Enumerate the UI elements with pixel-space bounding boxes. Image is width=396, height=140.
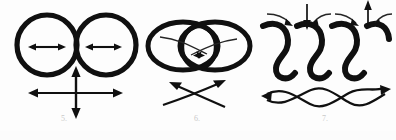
scan-noise-strip (0, 131, 396, 140)
up-arrow-head (364, 0, 372, 10)
right-circle (76, 15, 136, 75)
right-inner-double-arrow (85, 43, 122, 50)
braided-streamlines (261, 85, 391, 106)
figure-5 (0, 0, 140, 140)
diagram-page: 5. 6. 7. (0, 0, 396, 140)
lower-crossing-x-arrows (163, 80, 226, 107)
s-shaped-lobes (263, 24, 389, 78)
inner-crossing-flow-lines (160, 37, 237, 59)
tangency-bar (75, 38, 78, 56)
central-lens (182, 26, 216, 68)
figure-5-caption: 5. (61, 114, 67, 123)
figure-5-drawing (0, 0, 140, 140)
figure-7-caption: 7. (322, 114, 328, 123)
right-braid-arrow-head (380, 85, 391, 95)
figure-6-caption: 6. (194, 114, 200, 123)
left-braid-arrow-head (261, 91, 272, 101)
left-inner-double-arrow (28, 43, 66, 50)
left-circle (17, 15, 77, 75)
